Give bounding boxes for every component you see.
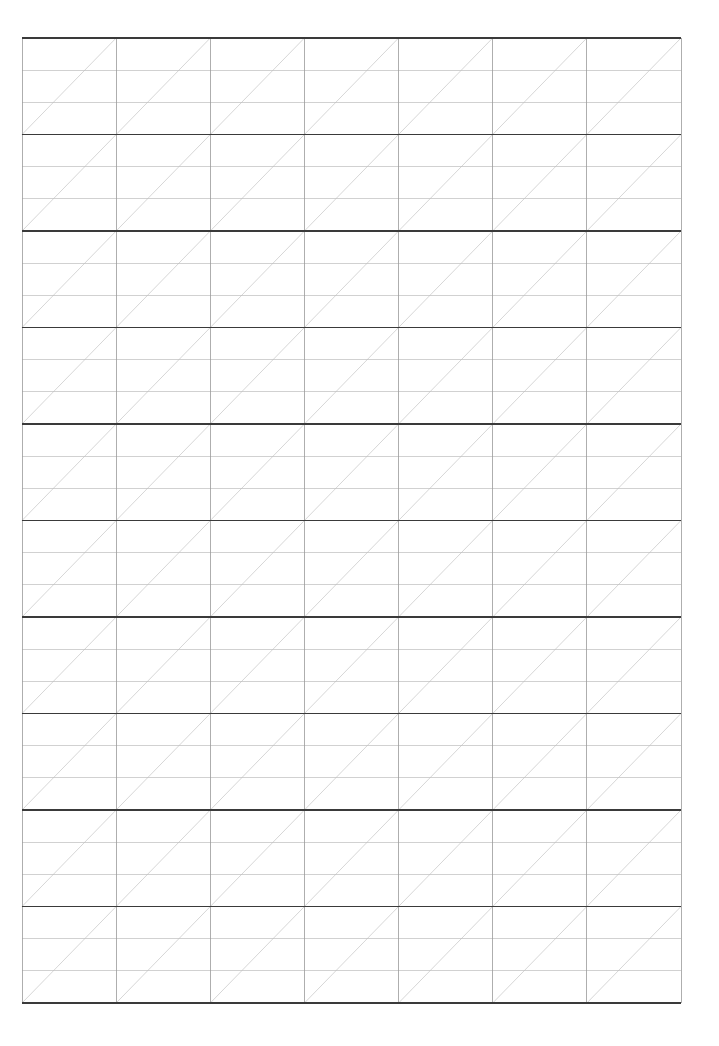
grid-canvas xyxy=(0,0,719,1046)
page-root xyxy=(0,0,719,1046)
sheet-background xyxy=(0,0,719,1046)
practice-grid-sheet xyxy=(0,0,719,1046)
